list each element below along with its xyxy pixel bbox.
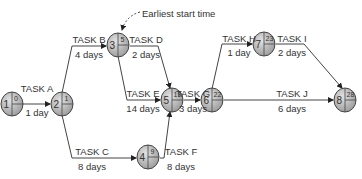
- node-3-id: 3: [110, 40, 116, 51]
- node-7-earliest-start: 23: [266, 35, 274, 42]
- task-f-name: TASK F: [165, 147, 198, 157]
- node-6-earliest-start: 22: [214, 91, 222, 98]
- node-8: 8 28: [334, 88, 356, 112]
- task-d-duration: 2 days: [132, 50, 160, 60]
- node-7: 7 23: [253, 32, 275, 56]
- node-3-earliest-start: 5: [121, 36, 125, 43]
- task-c-duration: 8 days: [78, 162, 106, 172]
- node-5-id: 5: [164, 95, 170, 106]
- task-h-name: TASK H: [222, 34, 256, 44]
- task-e-duration: 14 days: [126, 104, 159, 114]
- earliest-start-annotation: Earliest start time: [142, 9, 215, 19]
- task-j-name: TASK J: [276, 89, 308, 99]
- task-c-name: TASK C: [75, 147, 109, 157]
- task-b-name: TASK B: [72, 35, 105, 45]
- task-g-duration: 3 days: [179, 104, 207, 114]
- node-4-earliest-start: 9: [151, 148, 155, 155]
- task-a-name: TASK A: [21, 84, 54, 94]
- node-4: 4 9: [137, 145, 159, 169]
- node-4-id: 4: [140, 152, 146, 163]
- task-a-duration: 1 day: [25, 108, 48, 118]
- node-1: 1 0: [1, 92, 23, 116]
- task-f-duration: 8 days: [167, 162, 195, 172]
- node-1-id: 1: [4, 99, 10, 110]
- task-h-duration: 1 day: [227, 48, 250, 58]
- task-j-duration: 6 days: [278, 104, 306, 114]
- task-b-duration: 4 days: [75, 50, 103, 60]
- network-diagram: 1 0 2 1 3 5 4 9 5 19: [0, 0, 362, 179]
- task-g-name: TASK G: [176, 89, 210, 99]
- task-e-name: TASK E: [126, 89, 159, 99]
- annotation-arrow: [122, 12, 140, 30]
- node-2: 2 1: [51, 92, 73, 116]
- node-2-id: 2: [54, 99, 60, 110]
- node-2-earliest-start: 1: [65, 95, 69, 102]
- node-8-earliest-start: 28: [347, 91, 355, 98]
- node-3: 3 5: [107, 33, 129, 57]
- task-i-duration: 2 days: [278, 48, 306, 58]
- node-1-earliest-start: 0: [14, 95, 18, 102]
- task-i-name: TASK I: [277, 34, 306, 44]
- node-7-id: 7: [256, 39, 262, 50]
- node-8-id: 8: [337, 95, 343, 106]
- task-d-name: TASK D: [129, 35, 163, 45]
